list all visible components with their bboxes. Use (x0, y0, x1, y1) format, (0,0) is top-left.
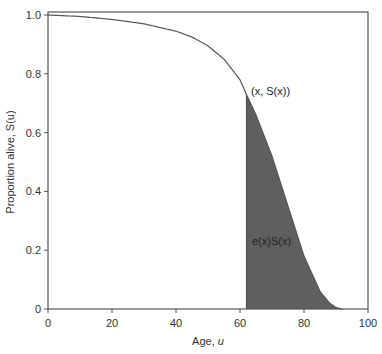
svg-text:0.2: 0.2 (26, 244, 41, 256)
svg-text:1.0: 1.0 (26, 9, 41, 21)
svg-text:0.6: 0.6 (26, 127, 41, 139)
y-axis-label: Proportion alive, S(u) (4, 110, 16, 213)
svg-text:0.4: 0.4 (26, 185, 41, 197)
svg-text:0.8: 0.8 (26, 68, 41, 80)
svg-text:100: 100 (359, 317, 377, 329)
plot-frame (48, 12, 368, 309)
svg-text:0: 0 (45, 317, 51, 329)
svg-text:0: 0 (35, 303, 41, 315)
x-axis-label: Age, u (192, 335, 224, 347)
survival-chart: 020406080100 00.20.40.60.81.0 Age, u Pro… (0, 0, 382, 354)
svg-text:60: 60 (234, 317, 246, 329)
svg-text:80: 80 (298, 317, 310, 329)
y-axis-ticks: 00.20.40.60.81.0 (26, 9, 48, 315)
x-axis-ticks: 020406080100 (45, 309, 377, 329)
point-annotation: (x, S(x)) (251, 85, 290, 97)
svg-text:40: 40 (170, 317, 182, 329)
svg-text:20: 20 (106, 317, 118, 329)
area-annotation: e(x)S(x) (252, 235, 291, 247)
